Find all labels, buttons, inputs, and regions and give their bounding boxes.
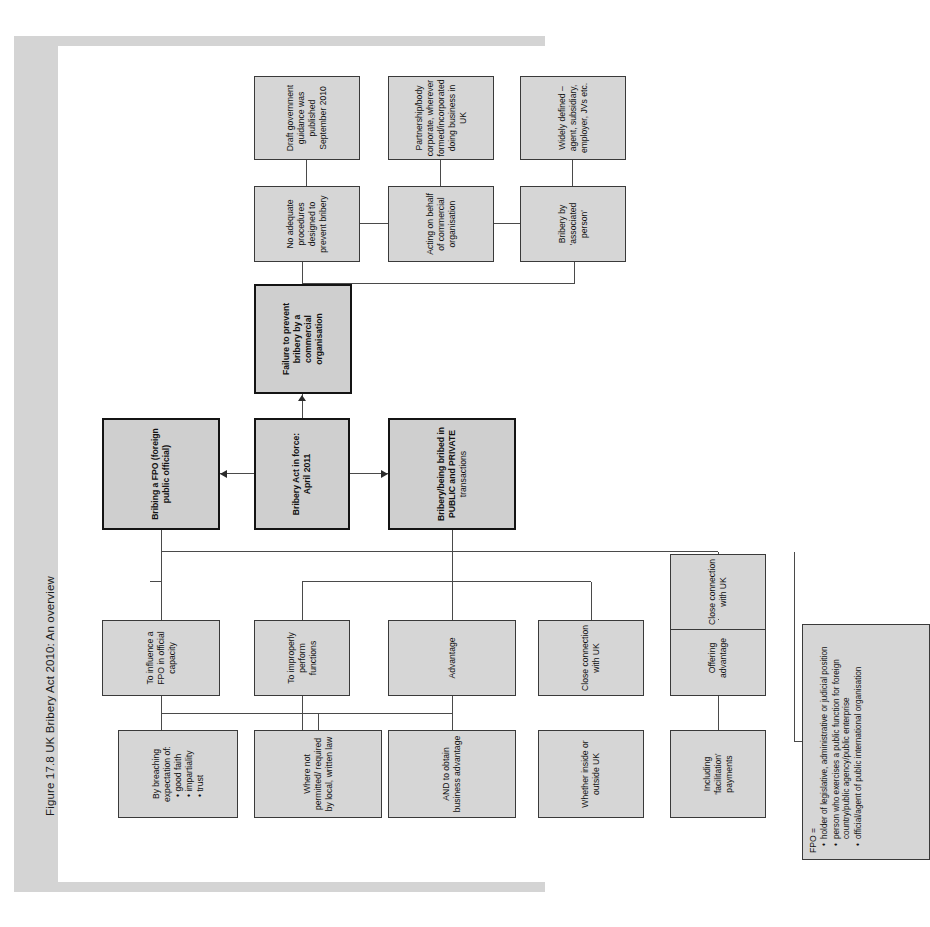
edge-fpo-to-fpodef [794, 552, 795, 742]
fpo-definition-bullet-1: holder of legislative, administrative or… [820, 631, 831, 845]
edge-andobtain-split [161, 713, 318, 714]
edge-fpo-closeuk2-h [718, 552, 719, 554]
node-close-connection-uk-1: Close connection with UK [538, 620, 644, 696]
page-band-top [14, 36, 545, 46]
edge-andobtain-to-offeradv [452, 714, 453, 730]
node-fpo-definition-panel: FPO =holder of legislative, administrati… [802, 624, 930, 860]
fpo-definition-heading: FPO = [808, 631, 819, 853]
figure-title: Figure 17.8 UK Bribery Act 2010: An over… [44, 516, 56, 816]
flowchart-layer-3: Where not permitted/ required by local, … [58, 46, 545, 882]
fpo-definition-bullet-3: official/agent of public international o… [854, 631, 865, 845]
edge-andobtain-to-wherenot [318, 714, 319, 730]
edge-fpo-drop [161, 551, 718, 552]
node-whether-inside-outside-uk: Whether inside or outside UK [538, 730, 644, 818]
edge-pubpriv-to-closeuk1 [591, 582, 592, 620]
node-where-not-permitted: Where not permitted/ required by local, … [254, 730, 382, 818]
edge-fpo-to-closeuk2 [718, 619, 719, 620]
edge-assoc-to-widely [572, 160, 573, 186]
edge-offeradv-to-facil [718, 696, 719, 730]
node-offering-advantage-box: Offering advantage [670, 620, 766, 696]
page-band-bottom [14, 882, 545, 892]
edge-fpo-to-influence [161, 530, 162, 620]
node-including-facilitation: Including 'facilitation' payments [670, 730, 766, 818]
edge-fpo-riser [150, 581, 161, 582]
edge-fpo-fpodef-riser [794, 741, 802, 742]
edge-failure-to-assoc [574, 262, 575, 284]
fpo-definition-bullet-2: person who exercises a public function f… [832, 631, 853, 845]
